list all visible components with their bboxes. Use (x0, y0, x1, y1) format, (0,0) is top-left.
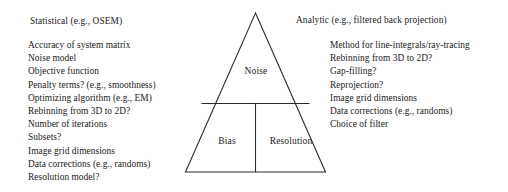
list-item: Data corrections (e.g., randoms) (330, 105, 470, 118)
list-item: Subsets? (28, 131, 156, 144)
list-item: Number of iterations (28, 118, 156, 131)
reconstruction-tradeoff-figure: Noise Bias Resolution Statistical (e.g.,… (0, 0, 508, 192)
zone-label-resolution: Resolution (260, 136, 322, 146)
list-item: Penalty terms? (e.g., smoothness) (28, 79, 156, 92)
list-item: Optimizing algorithm (e.g., EM) (28, 92, 156, 105)
list-item: Rebinning from 3D to 2D? (28, 105, 156, 118)
statistical-item-list: Accuracy of system matrix Noise model Ob… (28, 39, 156, 184)
list-item: Data corrections (e.g., randoms) (28, 158, 156, 171)
list-item: Image grid dimensions (28, 145, 156, 158)
list-item: Method for line-integrals/ray-tracing (330, 39, 470, 52)
zone-label-noise: Noise (230, 66, 282, 76)
list-item: Choice of filter (330, 118, 470, 131)
list-item: Resolution model? (28, 171, 156, 184)
analytic-panel-heading: Analytic (e.g., filtered back projection… (296, 15, 447, 25)
list-item: Accuracy of system matrix (28, 39, 156, 52)
list-item: Noise model (28, 52, 156, 65)
zone-label-bias: Bias (203, 136, 251, 146)
statistical-panel-heading: Statistical (e.g., OSEM) (30, 16, 122, 26)
list-item: Objective function (28, 65, 156, 78)
list-item: Gap-filling? (330, 65, 470, 78)
list-item: Reprojection? (330, 79, 470, 92)
analytic-item-list: Method for line-integrals/ray-tracing Re… (330, 39, 470, 131)
list-item: Rebinning from 3D to 2D? (330, 52, 470, 65)
list-item: Image grid dimensions (330, 92, 470, 105)
